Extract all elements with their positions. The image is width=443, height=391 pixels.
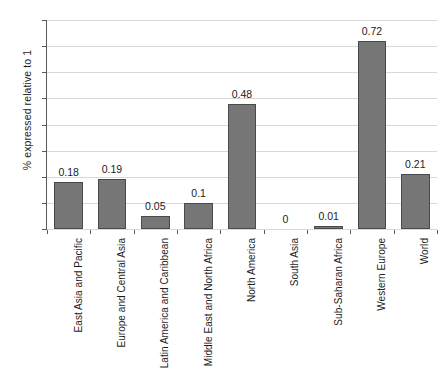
x-tick-mark	[177, 230, 178, 234]
bar	[314, 226, 343, 229]
bar	[54, 182, 83, 229]
x-tick-mark	[394, 230, 395, 234]
x-category-label: Latin America and Caribbean	[159, 238, 170, 368]
x-category-label: South Asia	[289, 238, 300, 286]
x-tick-mark	[264, 230, 265, 234]
bar-value-label: 0.1	[177, 187, 220, 199]
x-category-label: Sub-Saharan Africa	[333, 238, 344, 326]
gridline	[47, 229, 437, 230]
x-tick-mark	[350, 230, 351, 234]
bar-value-label: 0.19	[90, 163, 133, 175]
bar	[358, 41, 387, 229]
x-category-label: North America	[246, 238, 257, 302]
x-tick-mark	[437, 230, 438, 234]
plot-area: 0.180.190.050.10.4800.010.720.21	[47, 20, 437, 229]
x-category-label: Middle East and North Africa	[203, 238, 214, 366]
bar-value-label: 0.48	[220, 88, 263, 100]
x-tick-mark	[220, 230, 221, 234]
bar	[401, 174, 430, 229]
bar	[184, 203, 213, 229]
x-tick-mark	[90, 230, 91, 234]
bar-value-label: 0.01	[307, 210, 350, 222]
bar-value-label: 0.05	[134, 200, 177, 212]
x-category-label: East Asia and Pacific	[73, 238, 84, 332]
bar-value-label: 0.21	[394, 158, 437, 170]
x-tick-mark	[47, 230, 48, 234]
gridline	[47, 20, 437, 21]
bar-value-label: 0	[264, 213, 307, 225]
x-category-label: Europe and Central Asia	[116, 238, 127, 348]
bar	[98, 179, 127, 229]
x-category-label: World	[419, 238, 430, 264]
x-category-label: Western Europe	[376, 238, 387, 311]
bar	[141, 216, 170, 229]
bar	[228, 104, 257, 229]
bar-value-label: 0.18	[47, 166, 90, 178]
x-tick-mark	[134, 230, 135, 234]
y-axis-title: % expressed relative to 1	[21, 20, 33, 200]
x-tick-mark	[307, 230, 308, 234]
bar-chart: % expressed relative to 1 00.10.20.30.40…	[0, 0, 443, 391]
bar-value-label: 0.72	[350, 25, 393, 37]
